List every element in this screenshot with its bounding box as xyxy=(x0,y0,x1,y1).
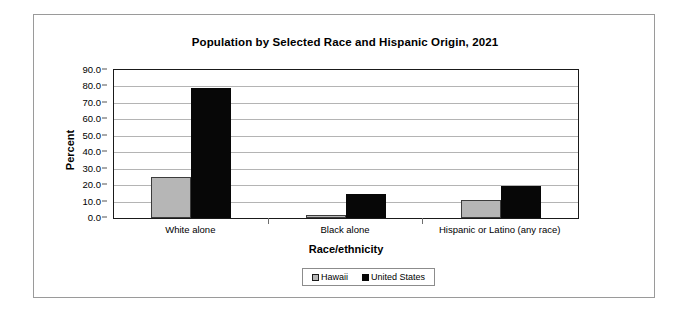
legend-swatch-icon xyxy=(312,274,319,281)
legend-item-hawaii: Hawaii xyxy=(312,272,348,282)
y-axis-tick-label: 40.0 xyxy=(83,146,102,157)
x-axis-group-separator xyxy=(422,218,423,224)
y-axis-tick-label: 70.0 xyxy=(83,96,102,107)
y-axis-tick-label: 30.0 xyxy=(83,162,102,173)
y-axis-tick-label: 60.0 xyxy=(83,113,102,124)
gridline xyxy=(114,86,578,87)
x-axis-tick-label: White alone xyxy=(165,224,215,235)
y-axis-tick-label: 20.0 xyxy=(83,179,102,190)
y-axis-ticks: 0.010.020.030.040.050.060.070.080.090.0 xyxy=(34,69,107,219)
y-axis-tick-mark xyxy=(102,217,107,218)
y-axis-tick-label: 80.0 xyxy=(83,80,102,91)
chart-legend: HawaiiUnited States xyxy=(302,268,435,286)
y-axis-tick-mark xyxy=(102,69,107,70)
bar-united-states-white-alone xyxy=(191,88,231,218)
x-axis-ticks: White aloneBlack aloneHispanic or Latino… xyxy=(113,224,579,240)
x-axis-tick-label: Black alone xyxy=(320,224,369,235)
bar-united-states-hispanic-or-latino-any-race xyxy=(501,186,541,218)
y-axis-tick-label: 90.0 xyxy=(83,64,102,75)
y-axis-tick-mark xyxy=(102,118,107,119)
gridline xyxy=(114,119,578,120)
chart-title: Population by Selected Race and Hispanic… xyxy=(34,36,656,48)
x-axis-tick-label: Hispanic or Latino (any race) xyxy=(439,224,560,235)
gridline xyxy=(114,152,578,153)
legend-swatch-icon xyxy=(362,274,369,281)
y-axis-tick-mark xyxy=(102,134,107,135)
y-axis-tick-label: 10.0 xyxy=(83,195,102,206)
gridline xyxy=(114,136,578,137)
x-axis-group-separator xyxy=(268,218,269,224)
x-axis-title: Race/ethnicity xyxy=(113,243,579,255)
gridline xyxy=(114,103,578,104)
y-axis-tick-mark xyxy=(102,200,107,201)
bar-hawaii-hispanic-or-latino-any-race xyxy=(461,200,501,218)
bar-hawaii-white-alone xyxy=(151,177,191,218)
legend-label: Hawaii xyxy=(321,272,348,282)
legend-label: United States xyxy=(371,272,425,282)
y-axis-tick-mark xyxy=(102,85,107,86)
y-axis-tick-mark xyxy=(102,167,107,168)
y-axis-tick-mark xyxy=(102,101,107,102)
y-axis-tick-label: 50.0 xyxy=(83,129,102,140)
y-axis-tick-mark xyxy=(102,184,107,185)
legend-item-united-states: United States xyxy=(362,272,425,282)
bar-united-states-black-alone xyxy=(346,194,386,218)
gridline xyxy=(114,169,578,170)
plot-area xyxy=(113,69,579,219)
y-axis-tick-label: 0.0 xyxy=(88,212,101,223)
y-axis-tick-mark xyxy=(102,151,107,152)
chart-figure: Population by Selected Race and Hispanic… xyxy=(33,14,655,298)
bar-hawaii-black-alone xyxy=(306,215,346,218)
